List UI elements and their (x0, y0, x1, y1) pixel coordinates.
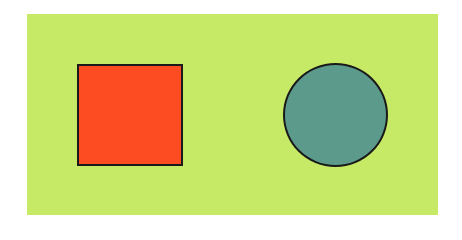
red-square (77, 64, 183, 166)
teal-circle (283, 63, 388, 167)
